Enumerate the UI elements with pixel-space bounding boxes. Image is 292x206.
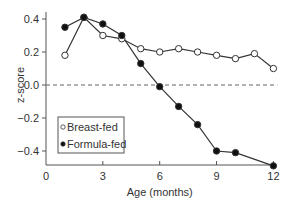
chart-container: −0.4−0.20.00.20.4036912Age (months)z-sco… xyxy=(0,0,292,206)
data-point-formula-fed xyxy=(62,24,68,30)
data-point-breast-fed xyxy=(175,46,181,52)
data-point-formula-fed xyxy=(213,148,219,154)
data-point-formula-fed xyxy=(194,121,200,127)
y-tick-label: −0.4 xyxy=(17,145,39,157)
data-point-formula-fed xyxy=(232,149,238,155)
data-point-breast-fed xyxy=(194,49,200,55)
data-point-breast-fed xyxy=(138,46,144,52)
legend-label: Formula-fed xyxy=(67,138,126,150)
y-tick-label: −0.2 xyxy=(17,112,39,124)
y-axis-label: z-score xyxy=(14,67,26,103)
legend-marker-breast-fed xyxy=(61,125,65,129)
x-tick-label: 12 xyxy=(267,170,279,182)
data-point-breast-fed xyxy=(157,49,163,55)
data-point-formula-fed xyxy=(81,14,87,20)
x-tick-label: 0 xyxy=(43,170,49,182)
data-point-breast-fed xyxy=(251,50,257,56)
data-point-formula-fed xyxy=(100,21,106,27)
x-tick-label: 6 xyxy=(157,170,163,182)
data-point-breast-fed xyxy=(213,52,219,58)
legend-marker-formula-fed xyxy=(61,142,65,146)
x-tick-label: 9 xyxy=(213,170,219,182)
data-point-formula-fed xyxy=(175,103,181,109)
x-tick-label: 3 xyxy=(100,170,106,182)
data-point-breast-fed xyxy=(232,55,238,61)
x-axis-label: Age (months) xyxy=(127,186,193,198)
data-point-breast-fed xyxy=(100,32,106,38)
y-tick-label: 0.2 xyxy=(24,46,39,58)
y-tick-label: 0.4 xyxy=(24,13,39,25)
data-point-formula-fed xyxy=(270,163,276,169)
data-point-breast-fed xyxy=(62,52,68,58)
legend-label: Breast-fed xyxy=(67,121,118,133)
data-point-breast-fed xyxy=(270,65,276,71)
series-line-breast-fed xyxy=(65,17,273,68)
data-point-formula-fed xyxy=(138,60,144,66)
line-chart: −0.4−0.20.00.20.4036912Age (months)z-sco… xyxy=(0,0,292,206)
data-point-formula-fed xyxy=(157,83,163,89)
data-point-formula-fed xyxy=(119,32,125,38)
